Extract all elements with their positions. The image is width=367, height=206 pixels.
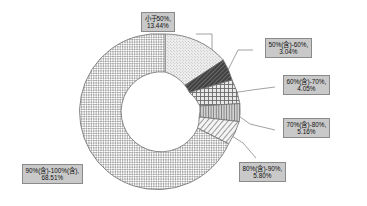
slice-label-0: 小于50%, 13.44% — [141, 12, 175, 32]
slice-label-4-value: 5.80% — [243, 172, 283, 180]
slice-label-1-name: 50%(含)-60%, — [269, 41, 309, 49]
slice-label-2-name: 60%(含)-70%, — [287, 78, 327, 86]
slice-label-1-value: 3.04% — [269, 48, 309, 56]
slice-label-2: 60%(含)-70%, 4.05% — [283, 75, 330, 95]
donut-chart: 小于50%, 13.44% 50%(含)-60%, 3.04% 60%(含)-7… — [0, 0, 367, 206]
leader-line-1 — [228, 50, 253, 70]
slice-label-5: 90%(含)-100%(含), 68.51% — [22, 164, 83, 184]
slice-label-3: 70%(含)-80%, 5.16% — [283, 118, 330, 138]
slice-label-4-name: 80%(含)-90%, — [243, 165, 283, 173]
donut-slices — [80, 34, 241, 190]
slice-label-3-value: 5.16% — [287, 128, 327, 136]
slice-label-2-value: 4.05% — [287, 85, 327, 93]
slice-label-0-value: 13.44% — [145, 22, 172, 30]
slice-label-3-name: 70%(含)-80%, — [287, 121, 327, 129]
slice-label-4: 80%(含)-90%, 5.80% — [239, 162, 286, 182]
slice-label-1: 50%(含)-60%, 3.04% — [265, 38, 312, 58]
leader-line-3 — [236, 114, 275, 130]
slice-label-0-name: 小于50%, — [145, 15, 172, 23]
leader-line-4 — [229, 134, 256, 158]
leader-line-2 — [232, 87, 275, 93]
slice-label-5-name: 90%(含)-100%(含), — [26, 167, 80, 175]
slice-label-5-value: 68.51% — [26, 174, 80, 182]
